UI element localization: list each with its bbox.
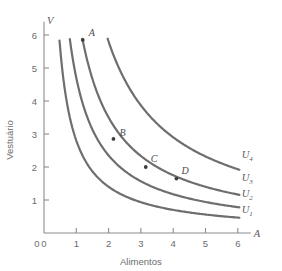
y-tick-label-1: 1 (32, 195, 37, 206)
curve-label-U4: U4 (242, 149, 254, 163)
curve-label-U3: U3 (242, 172, 254, 186)
x-axis-title: Alimentos (120, 256, 162, 267)
data-point-B (112, 137, 116, 141)
data-point-A (81, 38, 85, 42)
data-point-C (144, 165, 148, 169)
indifference-curve-chart: 01234560123456VAAlimentosVestuárioU1U2U3… (0, 0, 282, 271)
x-tick-label-6: 6 (235, 238, 240, 249)
curve-U2 (70, 39, 240, 207)
chart-container: 01234560123456VAAlimentosVestuárioU1U2U3… (0, 0, 282, 271)
x-tick-label-2: 2 (106, 238, 111, 249)
data-point-label-C: C (151, 153, 158, 164)
data-point-label-B: B (119, 127, 125, 138)
x-tick-label-4: 4 (171, 238, 176, 249)
x-tick-label-1: 1 (74, 238, 79, 249)
data-point-label-D: D (180, 165, 189, 176)
curve-label-U1: U1 (242, 204, 253, 218)
curve-label-U2: U2 (242, 188, 254, 202)
x-tick-label-3: 3 (138, 238, 143, 249)
y-axis-title: Vestuário (4, 120, 15, 160)
y-tick-label-4: 4 (32, 96, 37, 107)
y-tick-label-0: 0 (34, 238, 39, 249)
y-tick-label-2: 2 (32, 162, 37, 173)
curve-U4 (108, 39, 240, 170)
y-tick-label-6: 6 (32, 30, 37, 41)
x-tick-label-0: 0 (41, 238, 46, 249)
curve-U1 (60, 41, 240, 218)
y-tick-label-3: 3 (32, 129, 37, 140)
data-point-label-A: A (88, 27, 96, 38)
x-tick-label-5: 5 (203, 238, 208, 249)
data-point-D (175, 177, 179, 181)
y-tick-label-5: 5 (32, 63, 37, 74)
curve-U3 (82, 39, 239, 195)
x-axis-symbol: A (253, 228, 261, 239)
y-axis-symbol: V (47, 15, 55, 26)
